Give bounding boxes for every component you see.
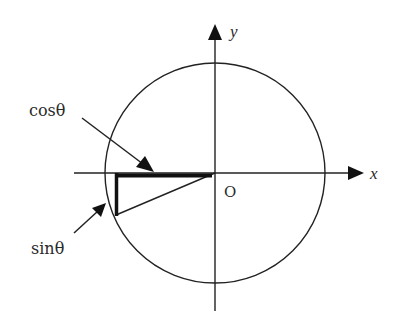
y-axis-arrow-icon <box>208 24 222 40</box>
cos-pointer-arrow <box>82 118 143 164</box>
x-axis-arrow-icon <box>348 166 364 180</box>
cos-arrowhead-icon <box>136 156 154 172</box>
origin-label: O <box>224 183 236 201</box>
radius-hypotenuse <box>116 173 215 215</box>
x-axis-label: x <box>369 164 378 183</box>
cos-theta-label: cosθ <box>29 101 65 120</box>
y-axis-label: y <box>228 22 238 41</box>
sin-pointer-arrow <box>74 211 98 233</box>
sin-theta-label: sinθ <box>31 239 64 258</box>
unit-circle-diagram: y x O cosθ sinθ <box>0 0 399 328</box>
